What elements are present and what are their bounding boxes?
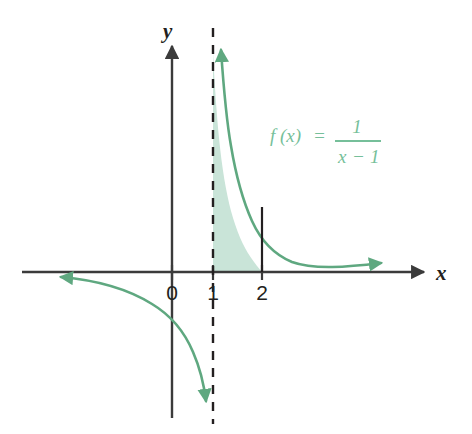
function-graph-figure: y x 0 1 2 f (x) = 1 x − 1 bbox=[0, 0, 472, 434]
formula-denominator-variable: x bbox=[337, 146, 347, 167]
left-branch-curve bbox=[61, 277, 206, 401]
plot-canvas: y x 0 1 2 f (x) = 1 x − 1 bbox=[0, 0, 472, 434]
formula-equals-sign: = bbox=[313, 125, 326, 146]
y-axis-label: y bbox=[160, 19, 173, 43]
x-tick-label-0: 0 bbox=[166, 281, 178, 304]
formula-denominator-one: 1 bbox=[370, 146, 380, 167]
left-branch-group bbox=[61, 277, 206, 401]
x-tick-label-2: 2 bbox=[256, 281, 268, 304]
formula-function-part: f (x) bbox=[270, 125, 301, 147]
formula-numerator: 1 bbox=[352, 116, 362, 137]
x-axis-label: x bbox=[435, 261, 447, 285]
formula-denominator-minus: − bbox=[352, 146, 365, 167]
shaded-region-under-curve bbox=[213, 52, 262, 272]
x-tick-label-1: 1 bbox=[207, 281, 219, 304]
shaded-area-group bbox=[213, 52, 262, 272]
function-formula-annotation: f (x) = 1 x − 1 bbox=[270, 116, 381, 167]
